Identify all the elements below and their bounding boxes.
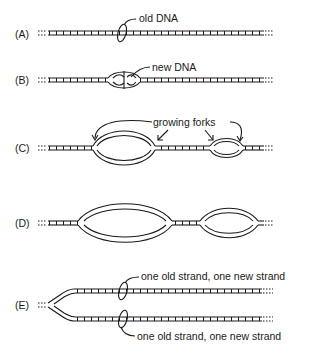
dna-replication-diagram: (A) old DNA (B) new DNA (C) growing fork… [0, 0, 310, 354]
panel-d-bubbles [38, 204, 274, 243]
old-dna-annotation: old DNA [139, 13, 178, 24]
growing-forks-annotation: growing forks [153, 117, 215, 128]
diagram-drawing [0, 0, 310, 354]
panel-e-fork [38, 277, 273, 336]
lower-strand-annotation: one old strand, one new strand [137, 331, 281, 342]
new-dna-annotation: new DNA [152, 62, 196, 73]
panel-c-label: (C) [15, 143, 30, 154]
panel-b-label: (B) [15, 75, 29, 86]
panel-d-label: (D) [15, 218, 30, 229]
upper-strand-annotation: one old strand, one new strand [141, 271, 285, 282]
panel-a-label: (A) [15, 29, 29, 40]
panel-e-label: (E) [15, 300, 29, 311]
